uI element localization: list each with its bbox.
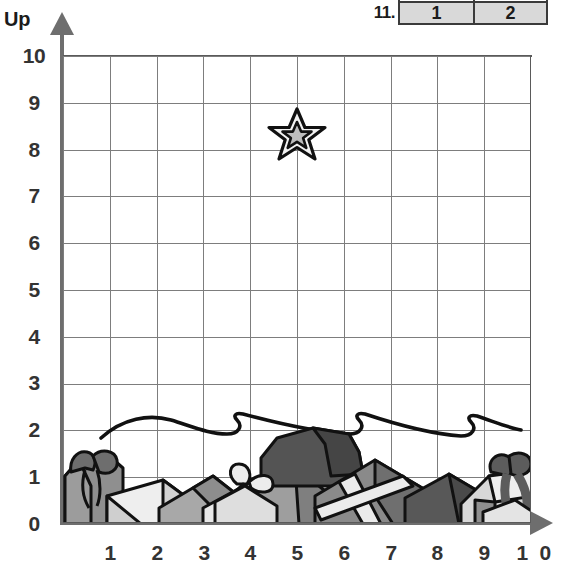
x-axis-ticks: 1 2 3 4 5 6 7 8 9 1 0 bbox=[0, 541, 564, 564]
table-cell[interactable]: 1 bbox=[400, 3, 473, 23]
x-tick: 1 bbox=[90, 541, 130, 564]
y-tick: 10 bbox=[14, 44, 54, 68]
y-tick: 5 bbox=[14, 278, 54, 302]
y-tick: 4 bbox=[14, 325, 54, 349]
y-tick: 0 bbox=[14, 512, 54, 536]
answer-table: 10. 3 4 11. 1 2 bbox=[366, 0, 552, 26]
x-tick: 4 bbox=[230, 541, 270, 564]
coordinate-grid bbox=[63, 55, 531, 523]
y-tick: 6 bbox=[14, 231, 54, 255]
table-row: 11. 1 2 bbox=[366, 1, 552, 25]
x-tick: 3 bbox=[184, 541, 224, 564]
x-tick: 6 bbox=[324, 541, 364, 564]
x-tick: 0 bbox=[525, 541, 564, 564]
y-tick: 7 bbox=[14, 184, 54, 208]
y-axis-ticks: 10 9 8 7 6 5 4 3 2 1 0 bbox=[0, 0, 54, 564]
x-tick: 7 bbox=[371, 541, 411, 564]
table-cell[interactable]: 2 bbox=[473, 3, 546, 23]
scene-illustrations bbox=[63, 56, 531, 523]
worksheet-canvas: 10. 3 4 11. 1 2 Up 10 9 8 7 6 5 4 3 2 1 bbox=[0, 0, 564, 564]
y-tick: 9 bbox=[14, 91, 54, 115]
y-tick: 1 bbox=[14, 465, 54, 489]
x-tick: 8 bbox=[417, 541, 457, 564]
table-cells: 1 2 bbox=[398, 1, 548, 25]
right-arrow-icon bbox=[530, 511, 553, 535]
x-tick: 5 bbox=[277, 541, 317, 564]
x-tick: 2 bbox=[137, 541, 177, 564]
y-tick: 8 bbox=[14, 138, 54, 162]
y-tick: 2 bbox=[14, 418, 54, 442]
row-number: 11. bbox=[366, 3, 398, 23]
y-tick: 3 bbox=[14, 371, 54, 395]
x-tick: 9 bbox=[464, 541, 504, 564]
gift-pile-illustration bbox=[65, 428, 531, 523]
star-marker bbox=[269, 109, 325, 159]
